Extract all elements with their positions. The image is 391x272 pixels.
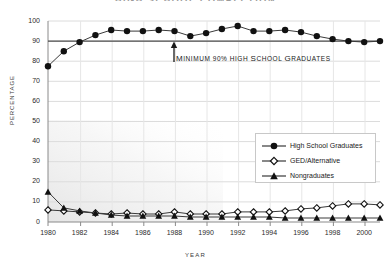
data-point [140,28,146,34]
data-point [171,28,177,34]
x-tick-1988: 1988 [158,229,190,236]
x-tick-1992: 1992 [222,229,254,236]
y-tick-10: 10 [14,197,40,204]
data-point [329,36,335,42]
x-axis-label: YEAR [0,252,391,258]
x-tick-1998: 1998 [317,229,349,236]
plot-shading [48,120,223,222]
data-point [45,63,51,69]
y-tick-90: 90 [14,37,40,44]
legend-item-nongraduates[interactable]: Nongraduates [261,168,375,183]
y-tick-70: 70 [14,77,40,84]
data-point [282,27,288,33]
data-point [298,29,304,35]
legend-label-nongraduates: Nongraduates [287,172,334,179]
data-point [203,30,209,36]
legend-label-ged-alternative: GED/Alternative [287,157,340,164]
y-tick-40: 40 [14,137,40,144]
x-tick-1980: 1980 [32,229,64,236]
data-point [219,26,225,32]
data-point [377,38,383,44]
data-point [108,27,114,33]
data-point [61,48,67,54]
data-point [187,33,193,39]
y-tick-100: 100 [14,17,40,24]
y-tick-60: 60 [14,97,40,104]
x-tick-1994: 1994 [253,229,285,236]
legend-marker-open-diamond [261,155,287,167]
annotation-text-part-2: 90% H [213,55,235,62]
annotation-text-part-1: INIMUM [183,55,213,62]
legend-marker-filled-triangle [261,170,287,182]
x-tick-1984: 1984 [95,229,127,236]
legend-marker-filled-circle [261,140,287,152]
x-tick-1996: 1996 [285,229,317,236]
x-tick-1986: 1986 [127,229,159,236]
x-axis-ticks [48,222,365,226]
chart-legend: High School Graduates GED/Alternative No… [255,133,376,183]
reference-line-annotation: MINIMUM 90% HIGH SCHOOL GRADUATES [176,54,331,63]
y-tick-30: 30 [14,157,40,164]
y-tick-80: 80 [14,57,40,64]
data-point [266,28,272,34]
legend-item-ged-alternative[interactable]: GED/Alternative [261,153,375,168]
data-point [92,32,98,38]
annotation-text-part-3: IGH [235,55,251,62]
x-tick-1982: 1982 [64,229,96,236]
data-point [76,39,82,45]
legend-label-high-school-graduates: High School Graduates [287,142,362,149]
chart-container: HIGH SCHOOL COMPLETION [0,0,391,272]
x-tick-1990: 1990 [190,229,222,236]
x-tick-2000: 2000 [348,229,380,236]
data-point [124,28,130,34]
y-tick-20: 20 [14,177,40,184]
data-point [235,23,241,29]
y-tick-0: 0 [14,218,40,225]
annotation-text-part-7: RADUATES [291,55,330,62]
y-tick-50: 50 [14,117,40,124]
data-point [361,39,367,45]
legend-item-high-school-graduates[interactable]: High School Graduates [261,138,375,153]
annotation-text-part-5: CHOOL [256,55,284,62]
data-point [314,33,320,39]
data-point [250,28,256,34]
data-point [156,27,162,33]
data-point [345,38,351,44]
